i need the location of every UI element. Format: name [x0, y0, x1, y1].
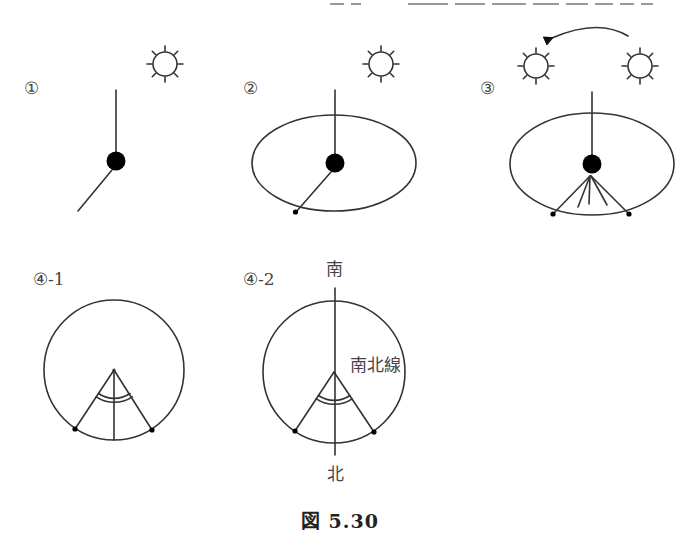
shadow-mark: [293, 209, 298, 214]
gnomon-ball: [583, 155, 602, 174]
shadow-mark: [371, 429, 376, 434]
panel-label-4-2: ④-2: [243, 271, 275, 288]
shadow-mark: [550, 211, 555, 216]
figure-canvas: [0, 0, 687, 542]
radius-line: [295, 372, 334, 431]
label-north: 北: [327, 466, 344, 483]
sun-icon: [622, 48, 658, 84]
panel-3: [510, 27, 674, 216]
panel-label-1: ①: [24, 80, 39, 97]
panel-label-4-1: ④-1: [33, 271, 65, 288]
shadow-line: [296, 172, 331, 212]
shadow-mark: [292, 428, 297, 433]
shadow-line: [591, 176, 629, 214]
shadow-mark: [149, 427, 154, 432]
panel-label-3: ③: [480, 80, 495, 97]
radius-line: [334, 372, 374, 432]
figure-caption: 図 5.30: [301, 512, 379, 531]
panel-1: [78, 46, 183, 211]
sun-icon: [147, 46, 183, 82]
sun-icon: [518, 48, 554, 84]
gnomon-ball: [326, 154, 345, 173]
label-south: 南: [326, 261, 343, 278]
radius-line: [114, 370, 152, 430]
radius-line: [75, 370, 114, 429]
shadow-mark: [72, 426, 77, 431]
gnomon-ball: [107, 152, 126, 171]
sun-motion-arrow: [552, 27, 628, 38]
label-ns-line: 南北線: [350, 357, 401, 374]
shadow-mark: [626, 211, 631, 216]
shadow-line: [553, 176, 590, 214]
shadow-line: [589, 176, 590, 204]
panel-label-2: ②: [243, 80, 258, 97]
center-point: [112, 368, 115, 371]
panel-4-1: [44, 300, 184, 440]
sun-icon: [363, 46, 399, 82]
panel-2: [252, 46, 416, 215]
shadow-line: [78, 170, 112, 211]
shadow-line: [578, 176, 590, 207]
